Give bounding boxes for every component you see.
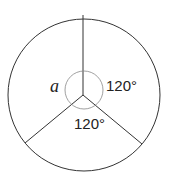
angle-label-bottom: 120°: [74, 116, 105, 131]
angle-label-right: 120°: [106, 78, 137, 93]
diagram-canvas: [0, 0, 175, 180]
angle-marker-circle: [65, 71, 103, 109]
outer-circle: [8, 19, 160, 171]
angle-label-a: a: [50, 77, 59, 95]
